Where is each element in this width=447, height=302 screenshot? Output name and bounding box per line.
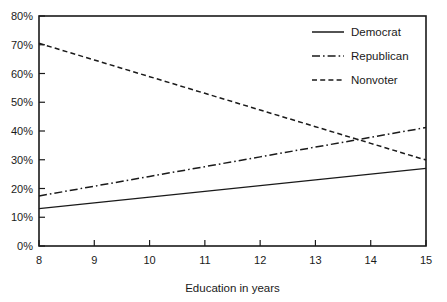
y-tick-label: 80% bbox=[11, 10, 33, 22]
x-tick-label: 12 bbox=[254, 254, 266, 266]
y-tick-label: 50% bbox=[11, 96, 33, 108]
y-axis-tick-labels: 0%10%20%30%40%50%60%70%80% bbox=[11, 10, 33, 252]
y-tick-label: 60% bbox=[11, 68, 33, 80]
chart-container: 0%10%20%30%40%50%60%70%80% 8910111213141… bbox=[0, 0, 447, 302]
x-tick-label: 10 bbox=[143, 254, 155, 266]
y-tick-label: 10% bbox=[11, 211, 33, 223]
x-axis-title: Education in years bbox=[185, 282, 280, 294]
x-tick-label: 15 bbox=[420, 254, 432, 266]
y-tick-label: 70% bbox=[11, 39, 33, 51]
x-tick-label: 8 bbox=[36, 254, 42, 266]
x-tick-label: 11 bbox=[199, 254, 210, 266]
chart-background bbox=[0, 0, 447, 302]
x-tick-label: 13 bbox=[309, 254, 321, 266]
legend-label-nonvoter: Nonvoter bbox=[351, 74, 398, 86]
x-tick-label: 9 bbox=[91, 254, 97, 266]
line-chart: 0%10%20%30%40%50%60%70%80% 8910111213141… bbox=[0, 0, 447, 302]
y-tick-label: 40% bbox=[11, 125, 33, 137]
y-tick-label: 0% bbox=[17, 240, 33, 252]
legend-label-democrat: Democrat bbox=[351, 26, 402, 38]
y-tick-label: 20% bbox=[11, 183, 33, 195]
y-tick-label: 30% bbox=[11, 154, 33, 166]
legend-label-republican: Republican bbox=[351, 50, 409, 62]
x-tick-label: 14 bbox=[365, 254, 377, 266]
